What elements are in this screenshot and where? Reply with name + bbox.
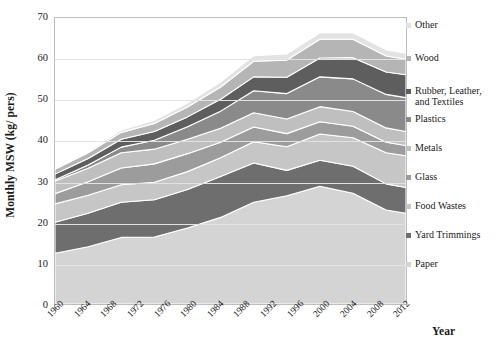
legend-item[interactable]: Metals [406, 142, 442, 153]
legend-item[interactable]: Plastics [406, 113, 446, 124]
gridline [55, 183, 406, 184]
legend-swatch-icon [406, 175, 411, 180]
legend-item-label: Rubber, Leather, and Textiles [415, 85, 482, 107]
y-tick-label: 30 [16, 177, 48, 187]
chart-legend: OtherWoodRubber, Leather, and TextilesPl… [406, 0, 501, 310]
legend-item[interactable]: Yard Trimmings [406, 229, 480, 240]
x-tick-mark [320, 305, 321, 308]
legend-item[interactable]: Rubber, Leather, and Textiles [406, 85, 482, 107]
plot-area [54, 17, 407, 305]
legend-item[interactable]: Food Wastes [406, 200, 466, 211]
legend-swatch-icon [406, 262, 411, 267]
legend-item-label: Yard Trimmings [415, 229, 480, 240]
legend-item[interactable]: Paper [406, 258, 438, 269]
y-tick-label: 50 [16, 94, 48, 104]
stacked-area-chart: Monthly MSW (kg/ pers) 010203040506070 1… [0, 0, 501, 355]
x-tick-mark [294, 305, 295, 308]
legend-item-label: Other [415, 19, 438, 30]
legend-swatch-icon [406, 146, 411, 151]
x-tick-mark [81, 305, 82, 308]
x-tick-mark [214, 305, 215, 308]
legend-item[interactable]: Other [406, 19, 438, 30]
gridline [55, 224, 406, 225]
y-tick-label: 70 [16, 12, 48, 22]
y-tick-label: 40 [16, 135, 48, 145]
x-tick-mark [374, 305, 375, 308]
x-tick-mark [161, 305, 162, 308]
gridline [55, 59, 406, 60]
x-tick-mark [400, 305, 401, 308]
x-tick-mark [134, 305, 135, 308]
gridline [55, 100, 406, 101]
legend-swatch-icon [406, 89, 411, 94]
x-tick-mark [187, 305, 188, 308]
legend-item[interactable]: Glass [406, 171, 437, 182]
legend-swatch-icon [406, 233, 411, 238]
y-axis-title: Monthly MSW (kg/ pers) [4, 92, 16, 218]
legend-item[interactable]: Wood [406, 52, 439, 63]
y-tick-label: 10 [16, 259, 48, 269]
legend-swatch-icon [406, 117, 411, 122]
legend-swatch-icon [406, 23, 411, 28]
y-tick-label: 20 [16, 218, 48, 228]
x-tick-label: 1960 [45, 299, 66, 320]
legend-item-label: Metals [415, 142, 442, 153]
x-tick-mark [107, 305, 108, 308]
y-tick-label: 60 [16, 53, 48, 63]
legend-item-label: Food Wastes [415, 200, 466, 211]
x-tick-mark [347, 305, 348, 308]
legend-swatch-icon [406, 204, 411, 209]
x-tick-mark [54, 305, 55, 308]
area-series-group [55, 18, 406, 304]
x-tick-mark [267, 305, 268, 308]
y-tick-label: 0 [16, 300, 48, 310]
gridline [55, 265, 406, 266]
x-axis-title: Year [432, 325, 455, 337]
legend-item-label: Plastics [415, 113, 446, 124]
x-tick-mark [240, 305, 241, 308]
legend-item-label: Glass [415, 171, 437, 182]
legend-item-label: Wood [415, 52, 439, 63]
legend-swatch-icon [406, 56, 411, 61]
gridline [55, 141, 406, 142]
legend-item-label: Paper [415, 258, 438, 269]
